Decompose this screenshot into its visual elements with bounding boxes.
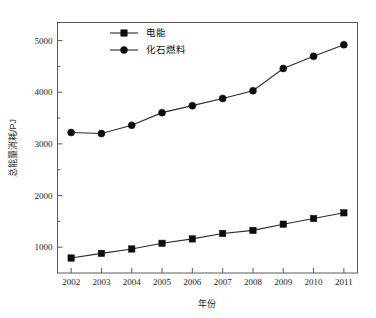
circle-marker-icon (121, 47, 128, 54)
x-axis-title: 年份 (198, 298, 216, 309)
legend-label: 电能 (146, 27, 166, 38)
square-marker-icon (189, 236, 195, 242)
x-tick-label: 2005 (153, 277, 172, 287)
circle-marker-icon (159, 109, 166, 116)
square-marker-icon (68, 255, 74, 261)
x-tick-label: 2003 (92, 277, 111, 287)
x-tick-label: 2008 (244, 277, 263, 287)
square-marker-icon (341, 210, 347, 216)
y-tick-label: 3000 (35, 139, 54, 149)
square-marker-icon (159, 240, 165, 246)
y-axis-title: 总能量消耗/PJ (7, 119, 18, 177)
chart-background (0, 0, 376, 318)
legend-label: 化石燃料 (146, 44, 186, 55)
square-marker-icon (280, 221, 286, 227)
square-marker-icon (129, 246, 135, 252)
chart-figure: 10002000300040005000 2002200320042005200… (0, 0, 376, 318)
square-marker-icon (98, 250, 104, 256)
circle-marker-icon (219, 95, 226, 102)
y-tick-label: 5000 (35, 36, 54, 46)
x-tick-label: 2006 (183, 277, 202, 287)
x-tick-label: 2011 (335, 277, 353, 287)
circle-marker-icon (189, 102, 196, 109)
square-marker-icon (250, 227, 256, 233)
y-tick-label: 2000 (35, 191, 54, 201)
x-tick-label: 2004 (123, 277, 142, 287)
x-tick-label: 2002 (62, 277, 80, 287)
x-tick-label: 2010 (305, 277, 324, 287)
circle-marker-icon (68, 129, 75, 136)
square-marker-icon (310, 215, 316, 221)
circle-marker-icon (128, 122, 135, 129)
x-tick-label: 2009 (274, 277, 293, 287)
y-tick-label: 4000 (35, 87, 54, 97)
line-chart: 10002000300040005000 2002200320042005200… (0, 0, 376, 318)
circle-marker-icon (280, 65, 287, 72)
square-marker-icon (219, 230, 225, 236)
circle-marker-icon (340, 41, 347, 48)
circle-marker-icon (98, 130, 105, 137)
circle-marker-icon (310, 53, 317, 60)
square-marker-icon (121, 30, 127, 36)
circle-marker-icon (249, 87, 256, 94)
y-tick-label: 1000 (35, 242, 54, 252)
x-tick-label: 2007 (214, 277, 233, 287)
